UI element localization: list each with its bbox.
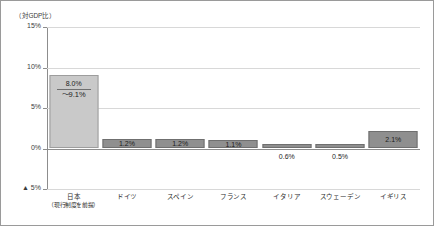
x-axis-category-name: イタリア [273, 193, 300, 200]
bar-value-label: 2.1% [385, 135, 401, 144]
bar-slot: 0.6% [260, 27, 313, 189]
bar-value-label: 1.2% [119, 139, 135, 148]
x-axis-category-name: フランス [220, 193, 247, 200]
x-axis-category-labels: 日本（現行制度を前提）ドイツスペインフランスイタリアスウェーデンイギリス [47, 192, 420, 222]
x-axis-category-label: フランス [207, 192, 260, 201]
axis-unit-caption: （対GDP比） [15, 10, 56, 20]
bar[interactable] [262, 144, 311, 149]
bar-value-label: 0.5% [332, 152, 348, 161]
x-axis-category-name: ドイツ [117, 193, 137, 200]
y-axis-tick-label: ▲ 5% [22, 184, 41, 191]
x-axis-category-name: スペイン [167, 193, 194, 200]
y-axis-tick-label: 5% [31, 103, 41, 110]
x-axis-category-label: 日本（現行制度を前提） [47, 192, 100, 210]
y-axis-tick-label: 15% [27, 22, 41, 29]
bar-value-label: 0.6% [279, 152, 295, 161]
y-axis-tickmark [43, 149, 47, 150]
gridline [47, 189, 420, 190]
x-axis-category-label: スペイン [154, 192, 207, 201]
plot-area: 8.0%～9.1%1.2%1.2%1.1%0.6%0.5%2.1% [47, 27, 420, 189]
y-axis-tickmark [43, 68, 47, 69]
y-axis-tick-label: 0% [31, 144, 41, 151]
x-axis-category-label: イギリス [367, 192, 420, 201]
bar-slot: 1.1% [207, 27, 260, 189]
bar[interactable] [316, 144, 365, 148]
bar-slot: 0.5% [313, 27, 366, 189]
x-axis-category-name: スウェーデン [320, 193, 361, 200]
chart-figure: （対GDP比） 8.0%～9.1%1.2%1.2%1.1%0.6%0.5%2.1… [0, 0, 434, 226]
x-axis-category-label: スウェーデン [313, 192, 366, 201]
bar-value-label: 1.1% [226, 140, 242, 149]
bar-label-separator [57, 89, 91, 90]
bar-slot: 1.2% [100, 27, 153, 189]
x-axis-category-label: ドイツ [100, 192, 153, 201]
y-axis-tickmark [43, 108, 47, 109]
x-axis-category-sublabel: （現行制度を前提） [47, 201, 100, 210]
y-axis-tickmark [43, 189, 47, 190]
bar-series: 8.0%～9.1%1.2%1.2%1.1%0.6%0.5%2.1% [47, 27, 420, 189]
bar-secondary-label: ～9.1% [62, 90, 86, 99]
bar-slot: 2.1% [367, 27, 420, 189]
bar-slot: 8.0%～9.1% [47, 27, 100, 189]
y-axis-tick-label: 10% [27, 63, 41, 70]
x-axis-category-name: イギリス [380, 193, 407, 200]
x-axis-category-label: イタリア [260, 192, 313, 201]
bar-value-label: 1.2% [172, 139, 188, 148]
y-axis-tickmark [43, 27, 47, 28]
bar-value-label: 8.0% [66, 79, 82, 88]
x-axis-category-name: 日本 [67, 193, 81, 200]
bar-slot: 1.2% [154, 27, 207, 189]
